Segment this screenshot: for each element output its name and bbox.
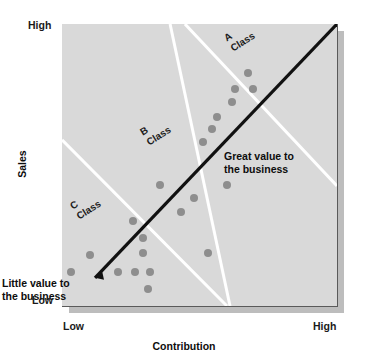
- scatter-point: [146, 268, 154, 276]
- scatter-point: [228, 98, 236, 106]
- plot-area: A Class B Class C Class Great value to t…: [62, 24, 338, 307]
- scatter-point: [249, 85, 257, 93]
- scatter-point: [129, 217, 137, 225]
- x-axis-tick-low: Low: [63, 320, 84, 332]
- scatter-point: [213, 113, 221, 121]
- scatter-point: [114, 268, 122, 276]
- scatter-point: [204, 249, 212, 257]
- scatter-point: [244, 69, 252, 77]
- y-axis-title: Sales: [16, 134, 28, 194]
- great-value-line2: the business: [224, 163, 294, 176]
- x-axis-tick-high: High: [313, 320, 336, 332]
- class-band-line-2: [170, 24, 230, 306]
- scatter-point: [190, 194, 198, 202]
- scatter-point: [86, 251, 94, 259]
- scatter-point: [231, 85, 239, 93]
- scatter-point: [131, 268, 139, 276]
- y-axis-tick-low: Low: [32, 294, 53, 306]
- plot-vector-layer: [62, 24, 337, 306]
- scatter-point: [199, 138, 207, 146]
- y-axis-tick-high: High: [28, 19, 51, 31]
- scatter-point: [223, 181, 231, 189]
- chart-figure: A Class B Class C Class Great value to t…: [0, 0, 368, 354]
- scatter-point: [67, 268, 75, 276]
- callout-great-value: Great value to the business: [224, 150, 294, 176]
- little-value-line1: Little value to: [2, 277, 70, 290]
- scatter-point: [156, 181, 164, 189]
- x-axis-title: Contribution: [0, 340, 368, 352]
- great-value-line1: Great value to: [224, 150, 294, 163]
